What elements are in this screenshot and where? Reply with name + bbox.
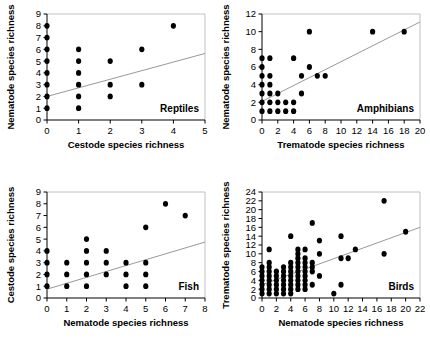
y-tick-label: 6 [36, 222, 41, 233]
y-tick-label: 1 [36, 103, 41, 114]
data-point [108, 58, 113, 64]
data-point [381, 198, 386, 204]
data-point [307, 64, 312, 70]
x-tick-label: 12 [352, 125, 363, 136]
data-point [143, 272, 148, 278]
data-points [259, 29, 406, 114]
data-point [331, 291, 336, 297]
data-point [76, 70, 81, 76]
y-tick-label: 8 [36, 20, 41, 31]
data-point [84, 248, 89, 254]
data-point [267, 108, 272, 114]
data-point [44, 70, 49, 76]
data-point [259, 91, 264, 97]
x-tick-label: 0 [259, 125, 264, 136]
x-tick-label: 2 [275, 125, 280, 136]
y-tick-label: 0 [251, 114, 256, 125]
data-point [139, 82, 144, 88]
x-tick-label: 8 [317, 303, 322, 314]
data-point [84, 236, 89, 242]
data-point [310, 260, 315, 266]
x-tick-label: 10 [329, 303, 340, 314]
x-tick-label: 2 [84, 303, 89, 314]
y-tick-label: 9 [36, 8, 41, 19]
data-point [143, 260, 148, 266]
panel-birds: 0246810121416182022240246810121416182022… [215, 178, 430, 356]
y-tick-label: 8 [251, 44, 256, 55]
data-point [123, 260, 128, 266]
data-point [267, 73, 272, 79]
y-axis-title: Trematode species richness [220, 181, 231, 308]
y-axis-title: Nematode species richness [220, 4, 231, 129]
x-tick-label: 0 [259, 303, 264, 314]
data-point [171, 23, 176, 29]
data-point [310, 282, 315, 288]
x-tick-label: 4 [171, 125, 176, 136]
y-tick-label: 2 [36, 91, 41, 102]
y-tick-label: 8 [36, 198, 41, 209]
data-point [44, 82, 49, 88]
x-tick-label: 8 [323, 125, 328, 136]
data-point [338, 282, 343, 288]
data-point [338, 233, 343, 239]
data-point [267, 82, 272, 88]
x-tick-label: 1 [64, 303, 69, 314]
data-point [317, 238, 322, 244]
x-tick-label: 6 [302, 303, 307, 314]
data-point [104, 260, 109, 266]
panel-annotation-label: Fish [178, 281, 199, 292]
data-point [291, 55, 296, 61]
data-point [183, 213, 188, 219]
data-point [259, 64, 264, 70]
x-tick-label: 3 [104, 303, 109, 314]
data-point [267, 247, 272, 253]
data-point [259, 264, 264, 270]
data-point [323, 73, 328, 79]
data-point [64, 272, 69, 278]
x-tick-label: 7 [183, 303, 188, 314]
data-point [353, 247, 358, 253]
x-axis-title: Trematode species richness [277, 139, 404, 150]
data-point [76, 105, 81, 111]
data-point [402, 29, 407, 35]
y-tick-label: 4 [36, 245, 41, 256]
data-point [267, 99, 272, 105]
data-points [259, 198, 408, 297]
y-axis-title: Nematode species richness [5, 4, 16, 129]
data-point [381, 251, 386, 257]
data-point [317, 273, 322, 279]
panel-reptiles: 0123456789012345Cestode species richness… [0, 0, 215, 178]
data-point [283, 99, 288, 105]
data-point [317, 251, 322, 257]
data-point [274, 269, 279, 275]
panel-annotation-label: Reptiles [160, 103, 199, 114]
data-point [104, 272, 109, 278]
data-point [267, 91, 272, 97]
x-tick-label: 18 [386, 303, 397, 314]
x-tick-label: 0 [44, 125, 49, 136]
x-tick-label: 0 [44, 303, 49, 314]
data-point [310, 220, 315, 226]
y-tick-label: 6 [36, 44, 41, 55]
x-tick-label: 16 [383, 125, 394, 136]
y-tick-label: 7 [36, 32, 41, 43]
y-tick-label: 7 [36, 210, 41, 221]
data-point [76, 46, 81, 52]
x-tick-label: 22 [415, 303, 426, 314]
data-point [44, 248, 49, 254]
data-point [123, 272, 128, 278]
trend-line [262, 22, 420, 102]
trend-line [47, 53, 205, 96]
y-tick-label: 1 [36, 281, 41, 292]
data-point [275, 108, 280, 114]
x-tick-label: 1 [76, 125, 81, 136]
panel-annotation-label: Birds [388, 281, 414, 292]
x-tick-label: 5 [202, 125, 207, 136]
y-tick-label: 3 [36, 79, 41, 90]
x-tick-label: 10 [336, 125, 347, 136]
data-point [259, 55, 264, 61]
y-tick-label: 2 [251, 97, 256, 108]
y-tick-label: 0 [36, 114, 41, 125]
data-point [259, 108, 264, 114]
x-tick-label: 5 [143, 303, 148, 314]
